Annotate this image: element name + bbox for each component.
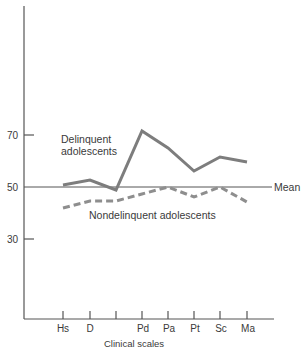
x-ticks <box>63 311 247 319</box>
x-label-pd: Pd <box>137 323 149 334</box>
y-tick-label-50: 50 <box>7 182 19 193</box>
delinquent-label-line2: adolescents <box>61 145 117 157</box>
x-label-hs: Hs <box>57 323 69 334</box>
y-tick-label-70: 70 <box>7 130 19 141</box>
x-label-pa: Pa <box>163 323 176 334</box>
nondelinquent-series-line <box>63 187 247 208</box>
clinical-scales-line-chart: 70 50 30 Mean Hs D Pd Pa Pt Sc Ma Clinic… <box>0 0 302 349</box>
x-label-pt: Pt <box>190 323 200 334</box>
x-label-ma: Ma <box>241 323 255 334</box>
nondelinquent-label: Nondelinquent adolescents <box>89 209 216 221</box>
x-axis-title: Clinical scales <box>104 338 164 349</box>
x-tick-labels: Hs D Pd Pa Pt Sc Ma <box>57 323 255 334</box>
delinquent-label-line1: Delinquent <box>61 133 111 145</box>
mean-label: Mean <box>274 181 300 193</box>
y-tick-label-30: 30 <box>7 234 19 245</box>
x-label-sc: Sc <box>215 323 227 334</box>
x-label-d: D <box>86 323 93 334</box>
